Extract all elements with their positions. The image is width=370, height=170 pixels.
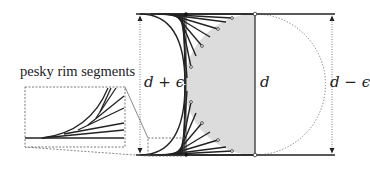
right-dimension-label: d − ϵ <box>330 73 370 91</box>
half-disc-fill <box>185 14 255 155</box>
callout-connector-bottom <box>25 147 148 156</box>
callout-connector-top <box>125 87 148 138</box>
left-dimension-label: d + ϵ <box>144 73 184 91</box>
bottom-cusp-dot <box>184 153 188 157</box>
top-cusp-dot <box>184 12 188 16</box>
callout-label: pesky rim segments <box>20 63 135 80</box>
center-dimension-label: d <box>260 73 270 91</box>
left-dimension-arrow <box>138 16 143 154</box>
